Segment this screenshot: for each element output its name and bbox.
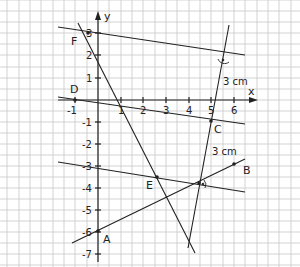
label-C: C: [214, 123, 222, 136]
x-tick-label: -1: [67, 105, 77, 116]
y-tick-label: -1: [82, 117, 92, 128]
axes: [58, 11, 258, 262]
y-tick-label: -7: [82, 249, 92, 260]
point-intersection: [197, 181, 201, 185]
grid: [0, 0, 300, 267]
x-tick-label: 2: [140, 105, 146, 116]
y-tick-label: -6: [82, 227, 92, 238]
point-C: [209, 119, 213, 123]
distance-label-bottom: 3 cm: [212, 146, 237, 157]
coordinate-diagram: x y -1 1 2 3 4 5 6 3 2 1 -1 -2 -3 -4 -5 …: [0, 0, 300, 267]
x-tick-label: 6: [231, 105, 237, 116]
x-tick-label: 4: [186, 105, 192, 116]
y-tick-label: -5: [82, 205, 92, 216]
label-D: D: [70, 83, 78, 96]
y-axis-label: y: [104, 10, 111, 23]
point-D: [73, 98, 77, 102]
y-axis-arrow-icon: [95, 11, 101, 20]
x-axis-label: x: [248, 85, 255, 98]
label-B: B: [243, 164, 251, 177]
y-tick-label: 1: [86, 73, 92, 84]
y-tick-label: 2: [86, 50, 92, 61]
label-F: F: [71, 35, 77, 48]
x-tick-label: 3: [163, 105, 169, 116]
point-A: [96, 229, 100, 233]
label-A: A: [103, 233, 111, 246]
label-E: E: [146, 179, 153, 192]
steep-line-F-E: [78, 23, 195, 253]
point-F: [86, 31, 90, 35]
distance-label-top: 3 cm: [223, 76, 248, 87]
y-tick-label: -2: [82, 139, 92, 150]
point-B: [232, 162, 236, 166]
y-tick-label: -4: [82, 183, 92, 194]
point-E: [155, 175, 159, 179]
